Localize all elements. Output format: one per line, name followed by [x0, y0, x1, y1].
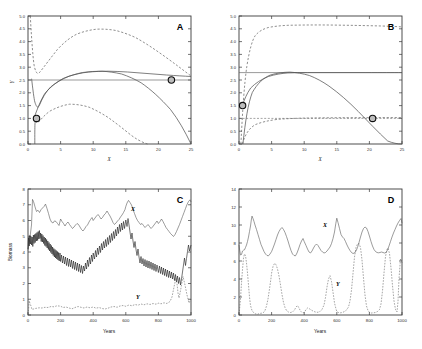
- panel-c-ytick-7: 7: [23, 202, 26, 207]
- panel-a-xtick-4: 20: [156, 147, 161, 152]
- panel-b-ytick-0: 0.0: [230, 142, 236, 147]
- panel-a-ytick-2: 1.0: [19, 116, 25, 121]
- panel-b-xlabel: X: [317, 156, 322, 162]
- panel-a-xlabel: X: [106, 156, 111, 162]
- panel-b-ytick-4: 2.0: [230, 90, 236, 95]
- figure-container: 0.0 0.5 1.0 1.5 2.0 2.5 3.0 3.5 4.0 4.5 …: [0, 0, 422, 349]
- panel-b-xtick-5: 25: [400, 147, 405, 152]
- panel-b-ytick-8: 4.0: [230, 39, 236, 44]
- panel-a-ytick-7: 3.5: [19, 52, 25, 57]
- panel-c-ytick-4: 4: [23, 250, 26, 255]
- panel-a-xtick-0: 0: [27, 147, 30, 152]
- panel-b-ytick-9: 4.5: [230, 26, 236, 31]
- panel-c-xlabel: Years: [103, 329, 116, 334]
- panel-a-ytick-3: 1.5: [19, 103, 25, 108]
- panel-d-ytick-0: 0: [234, 313, 237, 318]
- panel-b-ytick-2: 1.0: [230, 116, 236, 121]
- panel-b-ytick-10: 5.0: [230, 14, 236, 19]
- panel-d-ytick-6: 12: [231, 205, 236, 210]
- panel-c-letter: C: [177, 195, 184, 205]
- panel-d-xtick-4: 800: [366, 318, 374, 323]
- panel-a-ytick-0: 0.0: [19, 142, 25, 147]
- panel-b-ytick-5: 2.5: [230, 78, 236, 83]
- panel-c-ylabel: Biomass: [8, 242, 13, 261]
- panel-a-letter: A: [177, 22, 184, 32]
- panel-d-letter: D: [388, 195, 395, 205]
- panel-b-ytick-3: 1.5: [230, 103, 236, 108]
- panel-a-ytick-5: 2.5: [19, 78, 25, 83]
- panel-c-ytick-2: 2: [23, 281, 26, 286]
- panel-c-ytick-8: 8: [23, 187, 26, 192]
- panel-c-ytick-6: 6: [23, 218, 26, 223]
- panel-b-axes-frame: [239, 16, 402, 144]
- panel-c-ytick-5: 5: [23, 234, 26, 239]
- panel-d-xtick-1: 200: [268, 318, 276, 323]
- panel-d-ytick-2: 4: [234, 277, 237, 282]
- panel-c-plot: 0 1 2 3 4 5 6 7 8 0 200 400 600: [0, 175, 211, 349]
- panel-c-xtick-4: 800: [155, 318, 163, 323]
- panel-a-xtick-1: 5: [59, 147, 62, 152]
- panel-d-xtick-0: 0: [238, 318, 241, 323]
- panel-b-xtick-2: 10: [302, 147, 307, 152]
- panel-d: 0 2 4 6 8 10 12 14 0 200 400 600 80: [211, 175, 422, 349]
- panel-c-ytick-1: 1: [23, 297, 26, 302]
- panel-b-xtick-3: 15: [335, 147, 340, 152]
- panel-a-ytick-6: 3.0: [19, 65, 25, 70]
- panel-b-xtick-1: 5: [270, 147, 273, 152]
- panel-b-ytick-7: 3.5: [230, 52, 236, 57]
- panel-a-ytick-1: 0.5: [19, 129, 25, 134]
- panel-b-xtick-4: 20: [367, 147, 372, 152]
- panel-c: 0 1 2 3 4 5 6 7 8 0 200 400 600: [0, 175, 211, 349]
- panel-a: 0.0 0.5 1.0 1.5 2.0 2.5 3.0 3.5 4.0 4.5 …: [0, 0, 211, 175]
- panel-a-ytick-10: 5.0: [19, 14, 25, 19]
- panel-a-marker-low: [33, 115, 39, 121]
- panel-b-xtick-0: 0: [238, 147, 241, 152]
- panel-d-ytick-1: 2: [234, 295, 237, 300]
- panel-a-ytick-8: 4.0: [19, 39, 25, 44]
- panel-d-axes-frame: [239, 189, 402, 315]
- panel-d-ytick-7: 14: [231, 187, 236, 192]
- panel-c-xtick-3: 600: [122, 318, 130, 323]
- panel-b-plot: 0.0 0.5 1.0 1.5 2.0 2.5 3.0 3.5 4.0 4.5 …: [211, 0, 422, 175]
- panel-d-plot: 0 2 4 6 8 10 12 14 0 200 400 600 80: [211, 175, 422, 349]
- panel-c-xtick-0: 0: [27, 318, 30, 323]
- panel-b: 0.0 0.5 1.0 1.5 2.0 2.5 3.0 3.5 4.0 4.5 …: [211, 0, 422, 175]
- panel-d-xtick-3: 600: [333, 318, 341, 323]
- panel-a-ytick-9: 4.5: [19, 26, 25, 31]
- panel-d-ytick-5: 10: [231, 223, 236, 228]
- panel-b-marker-high: [369, 115, 375, 121]
- panel-a-xtick-3: 15: [124, 147, 129, 152]
- panel-b-ytick-1: 0.5: [230, 129, 236, 134]
- panel-a-ytick-4: 2.0: [19, 90, 25, 95]
- panel-d-xlabel: Years: [314, 329, 327, 334]
- panel-d-ytick-3: 6: [234, 259, 237, 264]
- panel-c-xtick-2: 400: [90, 318, 98, 323]
- panel-a-xtick-5: 25: [189, 147, 194, 152]
- panel-d-ytick-4: 8: [234, 241, 237, 246]
- panel-b-marker-low: [239, 102, 245, 108]
- panel-a-plot: 0.0 0.5 1.0 1.5 2.0 2.5 3.0 3.5 4.0 4.5 …: [0, 0, 211, 175]
- panel-b-letter: B: [388, 22, 395, 32]
- panel-c-ytick-3: 3: [23, 265, 26, 270]
- panel-b-ytick-6: 3.0: [230, 65, 236, 70]
- panel-d-xtick-5: 1000: [397, 318, 407, 323]
- panel-c-ytick-0: 0: [23, 313, 26, 318]
- panel-c-xtick-5: 1000: [186, 318, 196, 323]
- panel-a-ylabel: Y: [9, 79, 15, 83]
- panel-a-marker-high: [168, 77, 174, 83]
- panel-d-xtick-2: 400: [301, 318, 309, 323]
- panel-c-xtick-1: 200: [57, 318, 65, 323]
- panel-a-xtick-2: 10: [91, 147, 96, 152]
